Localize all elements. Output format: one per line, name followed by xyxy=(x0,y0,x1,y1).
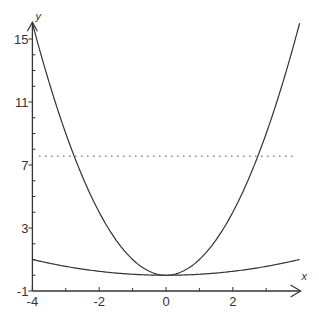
y-tick-label: 11 xyxy=(15,95,29,110)
plot-area: xy-4-202-1371115 xyxy=(14,10,308,309)
chart: xy-4-202-1371115 xyxy=(0,0,319,320)
y-axis-label: y xyxy=(34,10,42,22)
x-tick-label: 0 xyxy=(162,294,169,309)
y-tick-label: -1 xyxy=(17,284,29,299)
y-tick-label: 3 xyxy=(21,221,28,236)
flat-parabola-series xyxy=(32,260,299,276)
y-tick-label: 7 xyxy=(21,158,28,173)
y-tick-label: 15 xyxy=(14,32,28,47)
x-tick-label: 2 xyxy=(229,294,236,309)
x-axis-label: x xyxy=(301,270,308,282)
x-tick-label: -2 xyxy=(93,294,105,309)
parabola-series xyxy=(32,23,299,275)
